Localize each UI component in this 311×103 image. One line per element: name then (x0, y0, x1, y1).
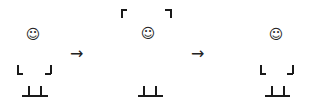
figure-stage-3: ☺ (251, 0, 311, 103)
ground-line (138, 95, 163, 97)
right-arm-horizontal (45, 73, 51, 75)
figure-stage-1: ☺ (8, 0, 68, 103)
ground-line (22, 95, 48, 97)
smiley-face-icon: ☺ (268, 27, 284, 41)
right-arm-vertical (170, 9, 172, 18)
left-arm-vertical (121, 9, 123, 18)
figure-stage-2: ☺ (117, 0, 177, 103)
left-arm-horizontal (17, 73, 23, 75)
smiley-face-icon: ☺ (140, 26, 156, 40)
arrow-right-icon: → (70, 46, 83, 62)
arrow-right-icon: → (191, 46, 204, 62)
left-arm-horizontal (260, 73, 266, 75)
smiley-face-icon: ☺ (25, 27, 41, 41)
right-arm-horizontal (287, 73, 293, 75)
ground-line (265, 95, 290, 97)
